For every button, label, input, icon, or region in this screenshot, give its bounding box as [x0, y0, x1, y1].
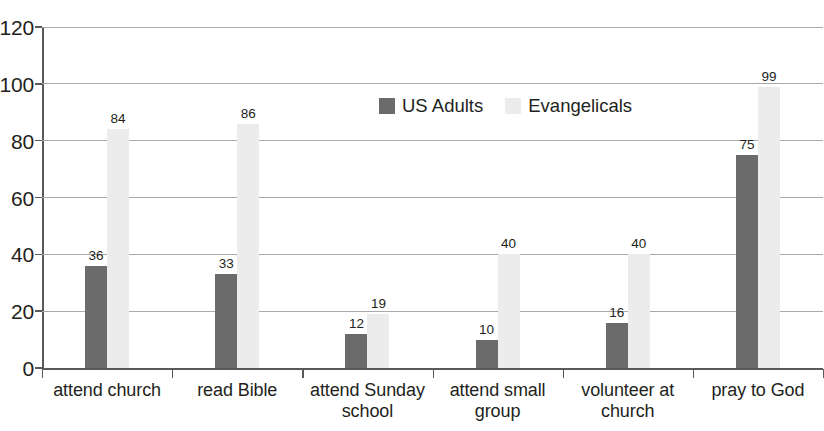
x-axis-category-line: school — [302, 401, 432, 422]
x-axis-category-line: group — [433, 401, 563, 422]
x-axis-category-label: volunteer atchurch — [563, 380, 693, 422]
y-tick-label: 120 — [0, 17, 34, 38]
bar-evangelicals — [237, 124, 259, 368]
bar-us-adults — [476, 340, 498, 368]
bar-us-adults — [606, 323, 628, 368]
legend-swatch-icon-us-adults — [379, 98, 395, 114]
x-axis-tick — [302, 369, 303, 378]
x-axis-tick — [172, 369, 173, 378]
x-axis-category-line: attend Sunday — [302, 380, 432, 401]
bar-value-label: 40 — [619, 237, 659, 251]
bar-value-label: 19 — [358, 297, 398, 311]
plot-area: 368433861219104016407599 — [42, 27, 823, 368]
x-axis-tick — [563, 369, 564, 378]
gridline — [42, 254, 823, 255]
legend-label-evangelicals: Evangelicals — [528, 96, 632, 115]
gridline — [42, 197, 823, 198]
chart-title-cropped — [455, 0, 575, 2]
x-axis-category-line: pray to God — [693, 380, 823, 401]
legend-item-us-adults: US Adults — [379, 96, 483, 115]
x-axis-category-line: attend small — [433, 380, 563, 401]
y-tick-label: 60 — [0, 188, 34, 209]
legend-label-us-adults: US Adults — [402, 96, 483, 115]
x-axis-tick — [693, 369, 694, 378]
x-axis-category-label: attend Sundayschool — [302, 380, 432, 422]
legend-swatch-icon-evangelicals — [505, 98, 521, 114]
y-tick-label: 80 — [0, 131, 34, 152]
y-tick-label: 100 — [0, 74, 34, 95]
bar-value-label: 84 — [98, 112, 138, 126]
chart-legend: US Adults Evangelicals — [379, 96, 632, 115]
x-axis-category-label: pray to God — [693, 380, 823, 401]
bar-value-label: 86 — [228, 107, 268, 121]
y-tick-mark — [35, 26, 42, 28]
gridline — [42, 140, 823, 141]
x-axis-tick — [42, 369, 43, 378]
x-axis-category-line: volunteer at — [563, 380, 693, 401]
y-tick-mark — [35, 367, 42, 369]
bar-us-adults — [736, 155, 758, 368]
y-tick-mark — [35, 140, 42, 142]
y-tick-mark — [35, 197, 42, 199]
y-tick-label: 40 — [0, 244, 34, 265]
bar-evangelicals — [107, 129, 129, 368]
bar-evangelicals — [498, 254, 520, 368]
bar-value-label: 99 — [749, 70, 789, 84]
x-axis-category-label: attend church — [42, 380, 172, 401]
bar-us-adults — [215, 274, 237, 368]
gridline — [42, 311, 823, 312]
y-tick-label: 20 — [0, 301, 34, 322]
bar-us-adults — [85, 266, 107, 368]
y-tick-mark — [35, 254, 42, 256]
y-tick-mark — [35, 310, 42, 312]
bar-evangelicals — [758, 87, 780, 368]
y-axis-labels: 020406080100120 — [0, 0, 34, 431]
x-axis-category-line: read Bible — [172, 380, 302, 401]
bar-value-label: 40 — [489, 237, 529, 251]
x-axis-category-line: church — [563, 401, 693, 422]
x-axis-category-label: read Bible — [172, 380, 302, 401]
x-axis-category-label: attend smallgroup — [433, 380, 563, 422]
y-tick-label: 0 — [0, 358, 34, 379]
x-axis-category-line: attend church — [42, 380, 172, 401]
gridline — [42, 27, 823, 28]
bar-evangelicals — [367, 314, 389, 368]
x-axis-tick — [433, 369, 434, 378]
legend-item-evangelicals: Evangelicals — [505, 96, 632, 115]
bar-evangelicals — [628, 254, 650, 368]
gridline — [42, 83, 823, 84]
bar-us-adults — [345, 334, 367, 368]
y-tick-mark — [35, 83, 42, 85]
